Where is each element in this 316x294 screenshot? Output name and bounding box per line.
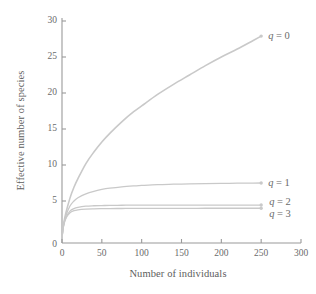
series-curves [62, 36, 261, 237]
x-tick-label: 150 [167, 248, 197, 258]
x-tick-label: 250 [246, 248, 276, 258]
y-axis-title: Effective number of species [15, 21, 26, 241]
y-tick-marks [62, 21, 66, 201]
curve-label-1: q = 1 [268, 177, 290, 188]
series-endpoint-2 [259, 203, 262, 206]
x-tick-label: 0 [47, 248, 77, 258]
x-tick-label: 100 [127, 248, 157, 258]
curve-label-2: q = 2 [269, 196, 291, 207]
x-tick-marks [62, 239, 301, 243]
series-endpoint-0 [259, 34, 262, 37]
series-curve-3 [62, 208, 261, 237]
y-tick-label: 20 [31, 87, 57, 97]
curve-label-value: = 3 [274, 208, 290, 219]
curve-label-value: = 0 [273, 30, 289, 41]
x-axis-title: Number of individuals [0, 268, 316, 279]
series-curve-0 [62, 36, 261, 237]
x-tick-label: 300 [286, 248, 316, 258]
series-endpoint-markers [259, 34, 262, 210]
series-curve-2 [62, 205, 261, 237]
chart-figure: Effective number of species Number of in… [0, 0, 316, 294]
y-tick-label: 10 [31, 159, 57, 169]
y-tick-label: 30 [31, 15, 57, 25]
series-endpoint-1 [259, 181, 262, 184]
series-endpoint-3 [259, 207, 262, 210]
x-tick-label: 50 [87, 248, 117, 258]
curve-label-0: q = 0 [268, 30, 290, 41]
y-tick-label: 25 [31, 51, 57, 61]
series-curve-1 [62, 183, 261, 237]
x-tick-label: 200 [206, 248, 236, 258]
y-tick-label: 5 [31, 195, 57, 205]
y-tick-label: 15 [31, 123, 57, 133]
curve-label-value: = 1 [273, 177, 289, 188]
curve-label-value: = 2 [274, 196, 290, 207]
curve-label-3: q = 3 [269, 208, 291, 219]
